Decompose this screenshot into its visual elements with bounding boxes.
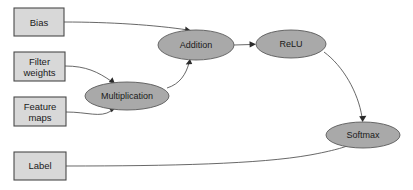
node-label: Softmax — [346, 130, 380, 140]
node-addition[interactable]: Addition — [158, 30, 234, 60]
edge-relu-to-softmax — [324, 52, 366, 122]
edge-addition-to-relu — [234, 41, 256, 47]
edge-path — [167, 63, 189, 88]
node-label-input[interactable]: Label — [14, 152, 66, 180]
edge-filter-weights-to-multiplication — [65, 66, 115, 84]
node-relu[interactable]: ReLU — [256, 30, 326, 58]
node-label-line-1: Feature — [24, 101, 57, 112]
node-bias[interactable]: Bias — [14, 8, 64, 36]
node-label-line-2: maps — [28, 112, 51, 123]
edge-path — [66, 111, 111, 114]
diagram-canvas: Bias Filter weights Feature maps Label M… — [0, 0, 413, 190]
edge-path — [64, 22, 188, 30]
arrowhead — [359, 116, 366, 122]
edge-bias-to-addition — [64, 22, 192, 32]
flowchart-diagram: Bias Filter weights Feature maps Label M… — [0, 0, 413, 190]
edge-path — [324, 52, 362, 117]
node-label: Multiplication — [101, 91, 153, 101]
edge-multiplication-to-addition — [167, 59, 192, 88]
node-feature-maps[interactable]: Feature maps — [14, 97, 66, 126]
edge-label-to-softmax — [66, 141, 357, 166]
node-filter-weights[interactable]: Filter weights — [14, 52, 65, 81]
node-softmax[interactable]: Softmax — [326, 122, 400, 148]
node-label-line-1: Filter — [29, 56, 50, 67]
node-label: Label — [28, 160, 51, 171]
node-label: Bias — [30, 17, 49, 28]
edge-path — [234, 45, 251, 46]
arrowhead — [250, 41, 257, 47]
edge-path — [65, 66, 111, 81]
node-multiplication[interactable]: Multiplication — [85, 82, 169, 110]
node-label-line-2: weights — [22, 67, 55, 78]
node-label: Addition — [180, 40, 213, 50]
edge-path — [66, 144, 352, 166]
node-label: ReLU — [279, 39, 302, 49]
